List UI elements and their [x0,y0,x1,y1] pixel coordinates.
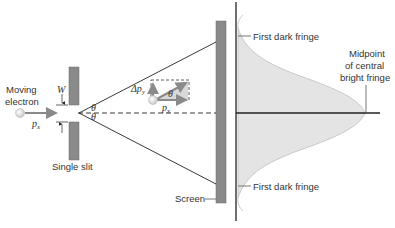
px-left-label: px [31,118,41,131]
slit-lower-bar [69,122,79,160]
electron-left [16,109,25,118]
curve-tail-bottom [238,198,243,211]
lower-ray [79,113,216,184]
theta-lower-label: θ [91,111,96,122]
midpoint-label-1: Midpoint [349,48,385,59]
upper-ray [79,42,216,113]
curve-tail-top [238,15,243,28]
diffraction-diagram: Moving electron W px θ θ Δpy θ px Single… [0,0,395,228]
screen-bar [216,21,226,203]
single-slit-label: Single slit [52,161,93,172]
theta-vector-label: θ [168,88,173,99]
slit-width-label: W [57,84,67,95]
screen-label: Screen [175,193,205,204]
first-dark-fringe-bottom-label: First dark fringe [253,181,319,192]
moving-electron-label-2: electron [5,96,39,107]
electron-scattered [149,96,158,105]
moving-electron-label-1: Moving [6,84,37,95]
midpoint-label-3: bright fringe [340,72,390,83]
delta-py-label: Δpy [130,83,146,96]
midpoint-label-2: of central [345,60,384,71]
slit-upper-bar [69,67,79,105]
first-dark-fringe-top-label: First dark fringe [253,31,319,42]
